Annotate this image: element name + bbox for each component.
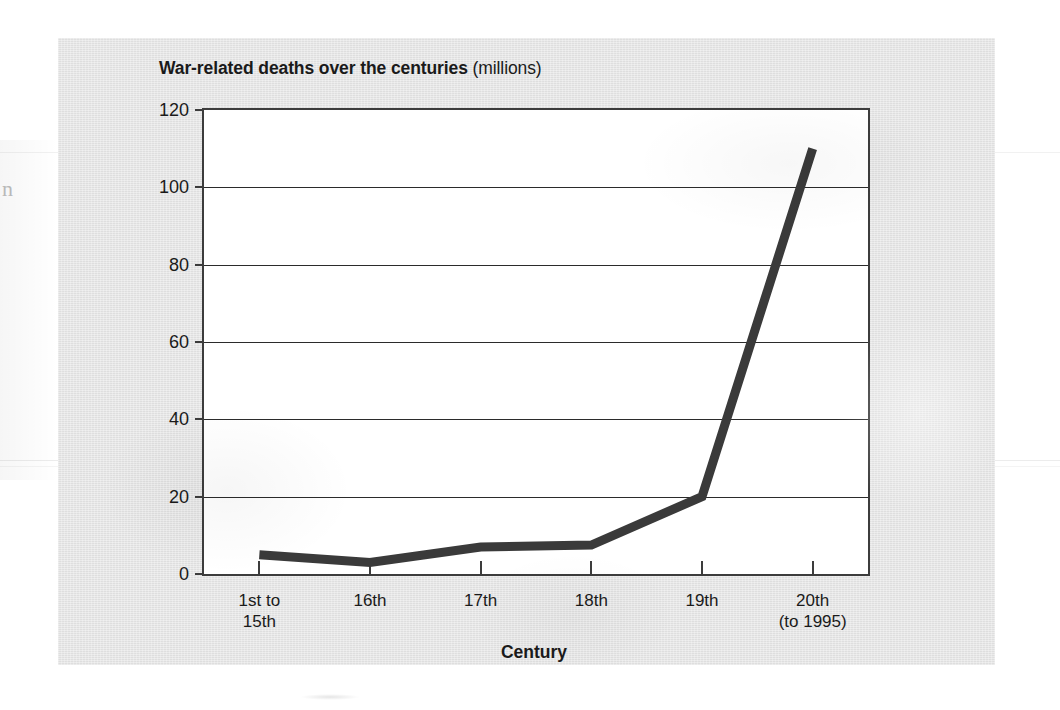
scan-artifact-left-glyph: n [2,176,16,202]
scan-artifact-left-smudge [0,140,58,480]
plot-area: 020406080100120 1st to15th16th17th18th19… [202,108,870,576]
figure-panel: War-related deaths over the centuries (m… [58,38,995,665]
chart-title-unit: (millions) [473,58,542,78]
y-axis-tick [195,341,204,343]
chart-title-main: War-related deaths over the centuries [159,58,468,78]
x-axis-tick-label: 19th [685,590,718,611]
x-axis-tick-label: 18th [575,590,608,611]
y-axis-tick-label: 0 [179,564,189,585]
x-axis-tick-label-line: 19th [685,590,718,611]
x-axis-title: Century [202,642,866,663]
y-axis-tick [195,496,204,498]
x-axis-tick-label-line: 17th [464,590,497,611]
y-axis-tick [195,573,204,575]
y-axis-tick-label: 60 [169,332,189,353]
x-axis-tick-label: 1st to15th [239,590,281,633]
y-axis-tick [195,418,204,420]
y-axis-tick [195,109,204,111]
x-axis-tick-label: 16th [353,590,386,611]
y-axis-tick [195,264,204,266]
x-axis-tick-label-line: 20th [779,590,847,611]
x-axis-tick-label-line: (to 1995) [779,611,847,632]
series-polyline [259,149,812,563]
x-axis-tick-label-line: 15th [239,611,281,632]
y-axis-tick [195,186,204,188]
y-axis-tick-label: 100 [159,177,189,198]
x-axis-tick-label-line: 1st to [239,590,281,611]
scan-artifact-bottom-speck [300,694,360,700]
y-axis-tick-label: 20 [169,486,189,507]
y-axis-tick-label: 80 [169,254,189,275]
y-axis-tick-label: 40 [169,409,189,430]
data-series-line [204,110,868,574]
chart-title: War-related deaths over the centuries (m… [159,58,542,79]
x-axis-tick-label: 20th(to 1995) [779,590,847,633]
y-axis-tick-label: 120 [159,100,189,121]
x-axis-tick-label: 17th [464,590,497,611]
x-axis-tick-label-line: 16th [353,590,386,611]
x-axis-tick-label-line: 18th [575,590,608,611]
